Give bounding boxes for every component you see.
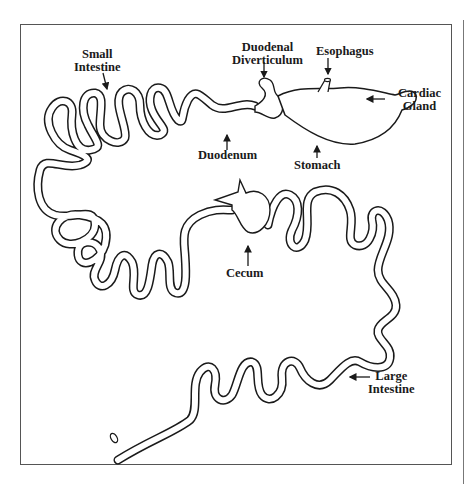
small-intestine-tube — [38, 88, 255, 296]
label-cecum: Cecum — [226, 267, 264, 280]
label-duodenal-diverticulum: Duodenal Diverticulum — [232, 41, 303, 67]
stomach-shape — [278, 88, 416, 145]
label-stomach: Stomach — [294, 159, 341, 172]
digestive-tract-drawing — [0, 0, 473, 484]
label-esophagus: Esophagus — [316, 45, 374, 58]
label-large-intestine: Large Intestine — [368, 370, 415, 396]
label-cardiac-gland: Cardiac Gland — [398, 87, 441, 113]
arrow-small-intestine — [103, 73, 107, 89]
label-duodenum: Duodenum — [198, 149, 257, 162]
label-small-intestine: Small Intestine — [74, 48, 121, 74]
tube-end — [109, 432, 119, 444]
